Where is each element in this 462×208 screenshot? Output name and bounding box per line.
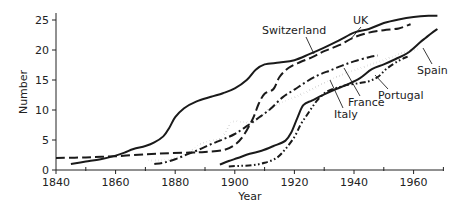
leader-portugal	[375, 75, 388, 89]
x-tick-label: 1840	[42, 176, 70, 189]
leader-spain	[423, 48, 432, 64]
y-tick-label: 10	[35, 104, 49, 117]
x-tick-label: 1920	[280, 176, 308, 189]
x-tick-label: 1860	[102, 176, 130, 189]
label-italy: Italy	[334, 108, 358, 121]
series-line-portugal	[229, 57, 408, 167]
label-portugal: Portugal	[378, 89, 424, 102]
leader-italy	[330, 80, 343, 108]
label-switzerland: Switzerland	[262, 24, 326, 37]
label-spain: Spain	[417, 64, 448, 77]
x-tick-label: 1940	[340, 176, 368, 189]
y-tick-label: 20	[35, 44, 49, 57]
leader-france	[344, 68, 360, 96]
y-tick-label: 5	[42, 134, 49, 147]
y-tick-label: 15	[35, 74, 49, 87]
x-tick-label: 1960	[400, 176, 428, 189]
y-ticks: 0510152025	[35, 14, 56, 177]
x-axis-title: Year	[237, 190, 262, 203]
x-tick-label: 1900	[221, 176, 249, 189]
leader-switzerland	[306, 37, 314, 54]
line-chart: 0510152025 1840186018801900192019401960 …	[0, 0, 462, 208]
y-tick-label: 25	[35, 14, 49, 27]
y-axis-title: Number	[17, 69, 30, 114]
label-uk: UK	[353, 14, 369, 27]
x-tick-label: 1880	[161, 176, 189, 189]
